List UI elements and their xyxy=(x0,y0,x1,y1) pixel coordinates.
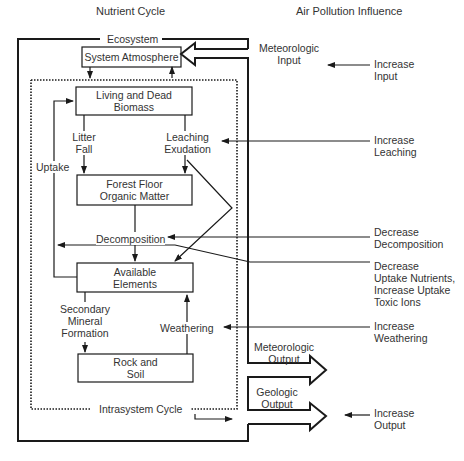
nutrient-cycle-diagram: Nutrient Cycle Air Pollution Influence E… xyxy=(0,0,464,461)
meteorologic-input-label: Meteorologic Input xyxy=(254,42,324,66)
uptake-label: Uptake xyxy=(36,161,69,173)
influence-increase-input: Increase Input xyxy=(374,58,414,82)
secondary-mineral-formation-label: Secondary Mineral Formation xyxy=(58,303,112,339)
influence-increase-leaching: Increase Leaching xyxy=(374,134,417,158)
influence-decrease-decomposition: Decrease Decomposition xyxy=(374,226,443,250)
ecosystem-label: Ecosystem xyxy=(107,33,158,45)
geologic-output-label: Geologic Output xyxy=(252,386,302,410)
available-elements-box: Available Elements xyxy=(77,266,193,290)
forest-floor-box: Forest Floor Organic Matter xyxy=(77,178,192,202)
rock-soil-box: Rock and Soil xyxy=(78,356,193,380)
influence-increase-output: Increase Output xyxy=(374,407,414,431)
air-pollution-header: Air Pollution Influence xyxy=(296,5,402,17)
litter-fall-label: Litter Fall xyxy=(66,131,102,155)
influence-increase-weathering: Increase Weathering xyxy=(374,320,428,344)
weathering-label: Weathering xyxy=(160,322,214,334)
system-atmosphere-box: System Atmosphere xyxy=(82,51,181,63)
intrasystem-cycle-label: Intrasystem Cycle xyxy=(96,403,185,415)
leaching-exudation-label: Leaching Exudation xyxy=(160,131,215,155)
decomposition-label: Decomposition xyxy=(96,233,165,245)
influence-uptake: Decrease Uptake Nutrients, Increase Upta… xyxy=(374,260,455,308)
meteorologic-output-label: Meteorologic Output xyxy=(252,341,316,365)
nutrient-cycle-header: Nutrient Cycle xyxy=(96,5,165,17)
biomass-box: Living and Dead Biomass xyxy=(76,89,192,113)
